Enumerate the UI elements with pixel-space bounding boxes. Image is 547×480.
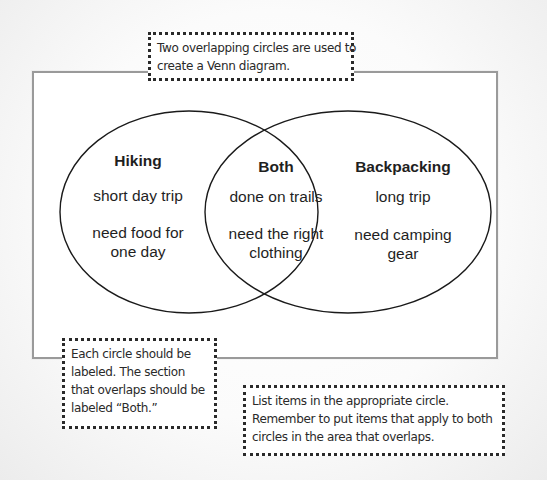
backpacking-title: Backpacking [355,157,451,176]
hiking-item: short day trip [93,186,183,205]
both-title: Both [258,157,293,176]
backpacking-item: long trip [375,187,430,206]
callout-bottom-left: Each circle should be labeled. The secti… [62,338,217,429]
callout-top-line: Two overlapping circles are used to [157,39,344,57]
callout-bottom-left-line: labeled. The section [71,363,207,381]
callout-bottom-right-line: circles in the area that overlaps. [252,428,495,446]
hiking-item: one day [110,242,165,261]
right-circle-backpacking [205,111,491,313]
callout-bottom-right-line: Remember to put items that apply to both [252,410,495,428]
callout-bottom-right-line: List items in the appropriate circle. [252,392,495,410]
callout-bottom-left-line: that overlaps should be [71,381,207,399]
both-item: clothing [249,243,302,262]
both-item: need the right [229,224,324,243]
callout-top-line: create a Venn diagram. [157,57,344,75]
hiking-item: need food for [92,223,183,242]
callout-bottom-right: List items in the appropriate circle. Re… [243,385,505,456]
callout-bottom-left-line: labeled “Both.” [71,399,207,417]
callout-bottom-left-line: Each circle should be [71,345,207,363]
backpacking-item: gear [387,244,418,263]
callout-top: Two overlapping circles are used to crea… [148,32,354,81]
both-item: done on trails [229,187,322,206]
left-circle-hiking [60,111,318,313]
hiking-title: Hiking [114,151,161,170]
backpacking-item: need camping [354,225,451,244]
